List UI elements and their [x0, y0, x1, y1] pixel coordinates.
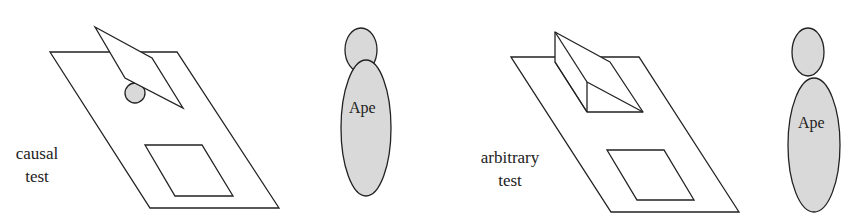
ape-body-left [341, 60, 391, 196]
ape-label-left: Ape [349, 99, 376, 117]
causal-test-label: causal test [8, 142, 66, 188]
label-line-2: test [470, 169, 550, 192]
ape-head-right [792, 28, 824, 76]
label-line-1: arbitrary [470, 146, 550, 169]
diagram-canvas [0, 0, 860, 222]
causal-test-board [50, 52, 279, 208]
ape-body-right [788, 78, 840, 212]
label-line-2: test [8, 165, 66, 188]
arbitrary-test-label: arbitrary test [470, 146, 550, 192]
ape-label-right: Ape [798, 114, 825, 132]
label-line-1: causal [8, 142, 66, 165]
